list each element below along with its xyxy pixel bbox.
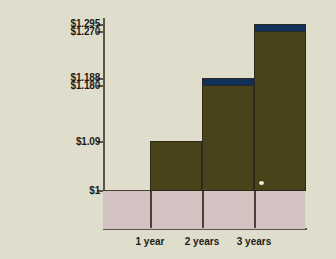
baseline-divider-3 [254,190,256,228]
y-axis-label-109: $1.09 [0,136,100,147]
x-axis-label-3-years: 3 years [228,236,280,247]
chart-container: $1.295 $1.270 $1.188 $1.180 $1.09 $1 1 y… [0,0,336,259]
y-axis-labels: $1.295 $1.270 $1.188 $1.180 $1.09 $1 [0,0,100,259]
baseline-band [103,190,305,229]
baseline-divider-1 [150,190,152,228]
bar-1-year[interactable] [150,141,202,191]
marker-dot [259,181,264,185]
bar-3-years-cap [255,25,305,32]
x-axis-label-1-year: 1 year [124,236,176,247]
y-axis-label-1270: $1.270 [0,26,100,37]
y-axis-label-1180: $1.180 [0,80,100,91]
bar-3-years[interactable] [254,24,306,191]
bar-2-years-cap [203,79,253,86]
baseline-divider-2 [202,190,204,228]
y-axis-label-1: $1 [0,185,100,196]
bar-2-years[interactable] [202,78,254,191]
plot-area [103,18,305,228]
x-axis-label-2-years: 2 years [176,236,228,247]
